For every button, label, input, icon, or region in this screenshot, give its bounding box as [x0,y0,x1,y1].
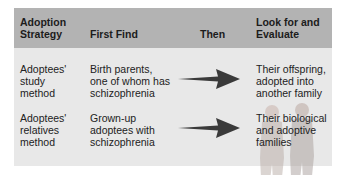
cell-text: Their biological [256,112,327,124]
first-find-cell: Birth parents, one of whom has schizophr… [90,63,170,99]
strategy-cell: Adoptees' relatives method [20,112,66,148]
cell-text: Their offspring, [256,63,326,75]
cell-text: adopted into [256,75,326,87]
header-first-find: First Find [90,28,138,40]
cell-text: method [20,87,66,99]
cell-text: families [256,136,327,148]
table-header: Adoption Strategy First Find Then Look f… [14,8,332,48]
arrow-right-icon [178,69,240,89]
cell-text: Grown-up [90,112,155,124]
header-then: Then [200,28,225,40]
header-text: Adoption [20,16,66,28]
header-text: First Find [90,28,138,40]
cell-text: study [20,75,66,87]
evaluate-cell: Their biological and adoptive families [256,112,327,148]
cell-text: schizophrenia [90,87,170,99]
cell-text: another family [256,87,326,99]
arrow-right-icon [178,118,240,138]
cell-text: adoptees with [90,124,155,136]
first-find-cell: Grown-up adoptees with schizophrenia [90,112,155,148]
header-look-for-evaluate: Look for and Evaluate [256,16,320,40]
cell-text: relatives [20,124,66,136]
header-text: Evaluate [256,28,320,40]
cell-text: method [20,136,66,148]
cell-text: Adoptees' [20,63,66,75]
cell-text: Adoptees' [20,112,66,124]
header-text: Strategy [20,28,66,40]
header-text: Look for and [256,16,320,28]
cell-text: Birth parents, [90,63,170,75]
adoption-strategy-table: Adoption Strategy First Find Then Look f… [14,8,332,166]
evaluate-cell: Their offspring, adopted into another fa… [256,63,326,99]
cell-text: schizophrenia [90,136,155,148]
header-text: Then [200,28,225,40]
cell-text: and adoptive [256,124,327,136]
strategy-cell: Adoptees' study method [20,63,66,99]
cell-text: one of whom has [90,75,170,87]
table-body: Adoptees' study method Birth parents, on… [14,48,332,166]
header-adoption-strategy: Adoption Strategy [20,16,66,40]
